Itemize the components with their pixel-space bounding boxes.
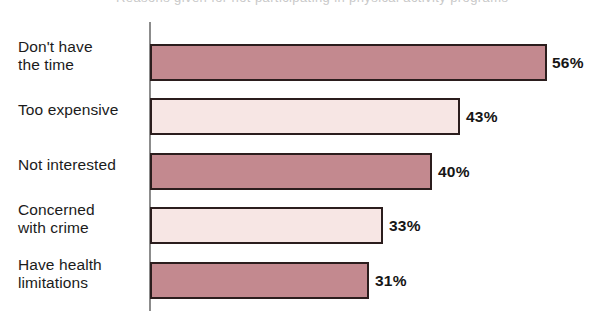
bar-row: Concerned with crime 33% (0, 207, 607, 261)
category-label: Too expensive (18, 101, 144, 119)
category-label: Don't have the time (18, 38, 144, 73)
chart-title-text: Reasons given for not participating in p… (0, 0, 607, 4)
category-label-line1: Too expensive (18, 101, 144, 119)
bar[interactable] (150, 153, 432, 190)
category-label: Concerned with crime (18, 201, 144, 236)
bar-value-label: 33% (389, 218, 421, 234)
bar-value-label: 40% (438, 164, 470, 180)
bar-value-label: 56% (552, 55, 584, 71)
category-label: Not interested (18, 156, 144, 174)
horizontal-bar-chart: Reasons given for not participating in p… (0, 0, 607, 327)
category-label-line1: Not interested (18, 156, 144, 174)
bar-row: Not interested 40% (0, 153, 607, 207)
category-label-line2: the time (18, 56, 144, 74)
bar[interactable] (150, 207, 383, 244)
category-label-line1: Concerned (18, 201, 144, 219)
category-label-line1: Have health (18, 256, 144, 274)
bar-value-label: 43% (466, 109, 498, 125)
bar-value-label: 31% (375, 273, 407, 289)
category-label-line2: limitations (18, 274, 144, 292)
bar-row: Don't have the time 56% (0, 44, 607, 98)
category-label: Have health limitations (18, 256, 144, 291)
bar[interactable] (150, 44, 547, 81)
bar-row: Too expensive 43% (0, 98, 607, 152)
bar-row: Have health limitations 31% (0, 262, 607, 316)
bar[interactable] (150, 262, 369, 299)
bar[interactable] (150, 98, 460, 135)
category-label-line2: with crime (18, 219, 144, 237)
chart-title-cutoff: Reasons given for not participating in p… (0, 0, 607, 9)
category-label-line1: Don't have (18, 38, 144, 56)
